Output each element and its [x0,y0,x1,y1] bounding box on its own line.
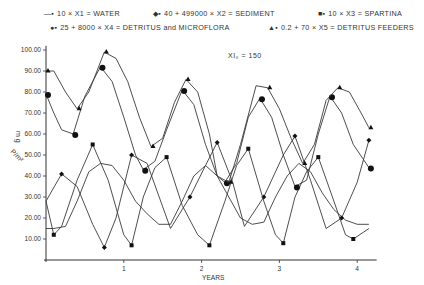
dot-marker-icon [329,94,335,100]
dot-marker-icon [142,168,148,174]
dot-marker-icon [181,88,187,94]
series-group [45,49,374,250]
x-tick-label: 3 [278,265,282,272]
y-tick-label: 80.00 [24,88,41,95]
triangle-marker-icon [267,85,272,90]
series-spartina [46,143,369,248]
y-tick-label: 20.00 [24,214,41,221]
x-tick-label: 1 [122,265,126,272]
square-marker-icon [91,143,95,147]
series-line [46,163,369,228]
dot-marker-icon [368,166,374,172]
triangle-marker-icon [337,85,342,90]
diamond-marker-icon [129,153,134,158]
diamond-marker-icon [102,245,107,250]
y-tick-label: 10.00 [24,235,41,242]
series-line [46,136,369,247]
triangle-marker-icon [104,49,109,54]
series-water [46,163,369,228]
dot-marker-icon [45,92,51,98]
triangle-marker-icon [186,76,191,81]
y-tick-label: 50.00 [24,151,41,158]
square-marker-icon [165,155,169,159]
axes: 10.0020.0030.0040.0050.0060.0070.0080.00… [21,46,377,272]
series-detritus-microflora [45,65,374,191]
x-tick-label: 4 [355,265,359,272]
square-marker-icon [52,233,56,237]
y-tick-label: 40.00 [24,172,41,179]
dot-marker-icon [72,132,78,138]
y-tick-label: 60.00 [24,130,41,137]
y-axis-label-bottom: P/m² [9,148,25,164]
y-tick-label: 100.00 [21,46,42,53]
y-tick-label: 30.00 [24,193,41,200]
dot-marker-icon [294,185,300,191]
triangle-marker-icon [368,125,373,130]
dot-marker-icon [259,96,265,102]
diamond-marker-icon [215,140,220,145]
square-marker-icon [316,155,320,159]
dot-marker-icon [99,65,105,71]
chart-plot: 10.0020.0030.0040.0050.0060.0070.0080.00… [0,0,424,285]
square-marker-icon [351,237,355,241]
diamond-marker-icon [187,195,192,200]
diamond-marker-icon [292,134,297,139]
x-tick-label: 2 [200,265,204,272]
square-marker-icon [130,243,134,247]
square-marker-icon [246,147,250,151]
series-sediment [46,134,371,250]
diamond-marker-icon [366,138,371,143]
square-marker-icon [281,241,285,245]
y-tick-label: 90.00 [24,67,41,74]
x-axis-label: YEARS [202,274,225,281]
square-marker-icon [207,243,211,247]
series-line [46,145,369,246]
y-axis-label-top: m g [14,131,22,143]
y-tick-label: 70.00 [24,109,41,116]
